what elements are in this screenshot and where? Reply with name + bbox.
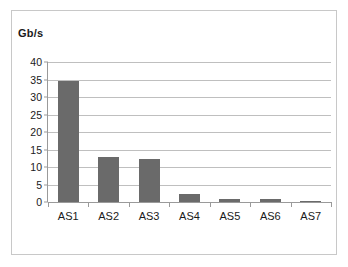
- bar-slot: [129, 62, 169, 202]
- x-tick-label: AS5: [210, 210, 250, 222]
- y-tick-label: 25: [30, 109, 42, 121]
- bar-as3[interactable]: [139, 159, 160, 202]
- x-tick-mark: [129, 202, 130, 207]
- y-tick-label: 10: [30, 161, 42, 173]
- y-tick-label: 30: [30, 91, 42, 103]
- bar-slot: [169, 62, 209, 202]
- chart-frame: Gb/s 4035302520151050 AS1AS2AS3AS4AS5AS6…: [11, 10, 337, 255]
- bar-slot: [48, 62, 88, 202]
- x-tick-mark: [210, 202, 211, 207]
- x-tick-mark: [331, 202, 332, 207]
- x-tick-label: AS2: [88, 210, 128, 222]
- x-tick-label: AS6: [250, 210, 290, 222]
- y-tick-label: 35: [30, 74, 42, 86]
- plot-area: 4035302520151050: [48, 62, 331, 202]
- bar-slot: [210, 62, 250, 202]
- y-tick-label: 20: [30, 126, 42, 138]
- x-tick-mark: [169, 202, 170, 207]
- x-tick-mark: [250, 202, 251, 207]
- x-axis-ticks: [48, 202, 331, 207]
- y-tick-label: 15: [30, 144, 42, 156]
- x-tick-label: AS1: [48, 210, 88, 222]
- y-tick-label: 40: [30, 56, 42, 68]
- bar-slot: [88, 62, 128, 202]
- x-tick-label: AS4: [169, 210, 209, 222]
- x-axis-labels: AS1AS2AS3AS4AS5AS6AS7: [48, 210, 331, 222]
- y-axis-title: Gb/s: [18, 27, 43, 39]
- x-tick-mark: [88, 202, 89, 207]
- bar-slot: [250, 62, 290, 202]
- x-tick-label: AS3: [129, 210, 169, 222]
- bar-series: [48, 62, 331, 202]
- bar-as2[interactable]: [98, 157, 119, 203]
- bar-as4[interactable]: [179, 194, 200, 202]
- bar-as1[interactable]: [58, 81, 79, 202]
- x-tick-mark: [48, 202, 49, 207]
- y-tick-label: 0: [36, 196, 42, 208]
- x-tick-label: AS7: [291, 210, 331, 222]
- bar-slot: [291, 62, 331, 202]
- y-tick-label: 5: [36, 179, 42, 191]
- x-tick-mark: [291, 202, 292, 207]
